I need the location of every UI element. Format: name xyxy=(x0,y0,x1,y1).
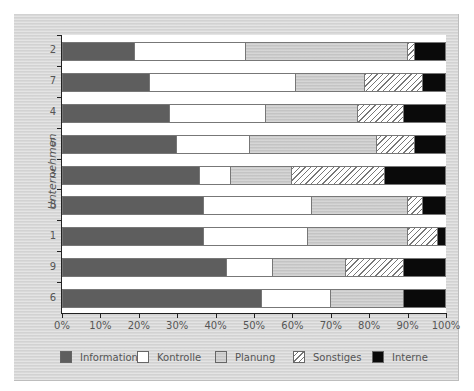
y-tick-mark xyxy=(57,220,62,221)
bar-segment-interne xyxy=(423,73,446,92)
bar-segment-information xyxy=(62,227,204,246)
x-tick-mark xyxy=(62,313,63,318)
bar-segment-kontrolle xyxy=(262,289,331,308)
bar-segment-sonstiges xyxy=(377,135,415,154)
x-tick-label: 100% xyxy=(426,320,466,331)
bar-segment-interne xyxy=(404,289,446,308)
bar-segment-sonstiges xyxy=(358,104,404,123)
bar-segment-kontrolle xyxy=(177,135,250,154)
legend-label: Interne xyxy=(392,352,428,363)
x-tick-label: 40% xyxy=(196,320,236,331)
y-tick-mark xyxy=(57,128,62,129)
y-tick-label: 4 xyxy=(40,106,56,117)
bar-segment-planung xyxy=(266,104,358,123)
x-tick-label: 10% xyxy=(80,320,120,331)
bar-segment-planung xyxy=(250,135,377,154)
bar-segment-kontrolle xyxy=(170,104,266,123)
bar-unternehmen-6 xyxy=(62,289,446,308)
legend-item-information: Information xyxy=(60,349,138,365)
legend: Information Kontrolle Planung Sonstiges … xyxy=(60,349,450,365)
bar-segment-sonstiges xyxy=(408,196,423,215)
y-tick-mark xyxy=(57,66,62,67)
bar-unternehmen-9 xyxy=(62,258,446,277)
legend-item-interne: Interne xyxy=(372,349,428,365)
x-tick-mark xyxy=(446,313,447,318)
x-tick-label: 20% xyxy=(119,320,159,331)
bar-segment-planung xyxy=(296,73,365,92)
bar-segment-interne xyxy=(415,135,446,154)
legend-item-planung: Planung xyxy=(215,349,275,365)
bar-segment-sonstiges xyxy=(408,42,416,61)
bar-segment-kontrolle xyxy=(204,227,308,246)
legend-item-sonstiges: Sonstiges xyxy=(293,349,361,365)
bar-unternehmen-8 xyxy=(62,196,446,215)
bar-segment-interne xyxy=(404,258,446,277)
legend-label: Planung xyxy=(235,352,275,363)
bar-unternehmen-5 xyxy=(62,135,446,154)
legend-swatch-planung xyxy=(215,351,227,363)
bar-segment-information xyxy=(62,258,227,277)
bar-segment-interne xyxy=(415,42,446,61)
bar-segment-kontrolle xyxy=(150,73,296,92)
bar-segment-sonstiges xyxy=(292,166,384,185)
x-tick-mark xyxy=(331,313,332,318)
x-tick-label: 90% xyxy=(388,320,428,331)
bar-segment-interne xyxy=(423,196,446,215)
bar-segment-information xyxy=(62,104,170,123)
bar-segment-sonstiges xyxy=(408,227,439,246)
legend-swatch-interne xyxy=(372,351,384,363)
bar-segment-planung xyxy=(273,258,346,277)
bar-segment-interne xyxy=(404,104,446,123)
bar-segment-information xyxy=(62,166,200,185)
x-tick-mark xyxy=(254,313,255,318)
bar-unternehmen-7 xyxy=(62,73,446,92)
bar-segment-interne xyxy=(385,166,446,185)
x-tick-mark xyxy=(100,313,101,318)
y-tick-label: 7 xyxy=(40,75,56,86)
bar-unternehmen-2 xyxy=(62,42,446,61)
x-tick-label: 50% xyxy=(234,320,274,331)
y-axis-line xyxy=(61,35,62,314)
x-tick-mark xyxy=(139,313,140,318)
bar-segment-planung xyxy=(331,289,404,308)
bar-segment-information xyxy=(62,289,262,308)
y-tick-label: 6 xyxy=(40,292,56,303)
y-tick-mark xyxy=(57,35,62,36)
bar-segment-information xyxy=(62,135,177,154)
x-tick-mark xyxy=(216,313,217,318)
legend-label: Information xyxy=(80,352,138,363)
bar-segment-information xyxy=(62,73,150,92)
x-tick-label: 60% xyxy=(272,320,312,331)
bar-unternehmen-4 xyxy=(62,104,446,123)
x-tick-label: 0% xyxy=(42,320,82,331)
x-tick-mark xyxy=(369,313,370,318)
y-tick-label: 1 xyxy=(40,230,56,241)
y-tick-mark xyxy=(57,282,62,283)
legend-label: Sonstiges xyxy=(313,352,361,363)
bar-segment-kontrolle xyxy=(200,166,231,185)
y-tick-mark xyxy=(57,251,62,252)
x-tick-label: 70% xyxy=(311,320,351,331)
y-axis-title: Unternehmen xyxy=(46,132,59,212)
legend-swatch-information xyxy=(60,351,72,363)
x-tick-label: 80% xyxy=(349,320,389,331)
bar-segment-kontrolle xyxy=(135,42,246,61)
bar-segment-planung xyxy=(308,227,408,246)
legend-swatch-sonstiges xyxy=(293,351,305,363)
bar-segment-sonstiges xyxy=(346,258,404,277)
bar-segment-planung xyxy=(231,166,292,185)
bar-segment-kontrolle xyxy=(204,196,312,215)
bar-unternehmen-1 xyxy=(62,227,446,246)
x-tick-label: 30% xyxy=(157,320,197,331)
bar-segment-planung xyxy=(246,42,407,61)
x-tick-mark xyxy=(408,313,409,318)
legend-swatch-kontrolle xyxy=(137,351,149,363)
x-tick-mark xyxy=(292,313,293,318)
y-tick-mark xyxy=(57,97,62,98)
bar-segment-interne xyxy=(438,227,446,246)
bar-segment-sonstiges xyxy=(365,73,423,92)
legend-label: Kontrolle xyxy=(157,352,201,363)
bar-segment-information xyxy=(62,42,135,61)
y-tick-label: 9 xyxy=(40,261,56,272)
bar-segment-planung xyxy=(312,196,408,215)
